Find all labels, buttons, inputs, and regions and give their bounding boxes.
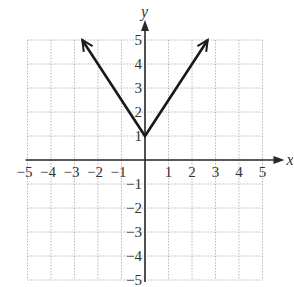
x-tick-label: −1 [111, 164, 127, 180]
y-tick-label: 4 [135, 56, 143, 72]
y-tick-label: −4 [126, 248, 142, 264]
coordinate-plane: −5−4−3−2−112345−5−4−3−2−112345 x y [0, 0, 293, 287]
y-axis-label: y [139, 3, 149, 21]
x-tick-label: −5 [17, 164, 33, 180]
x-axis-arrow-icon [274, 156, 285, 164]
y-tick-label: 3 [135, 80, 143, 96]
y-tick-label: −2 [126, 200, 142, 216]
x-tick-label: 2 [188, 164, 196, 180]
y-tick-label: −1 [126, 176, 142, 192]
x-tick-label: 3 [212, 164, 220, 180]
x-tick-label: 4 [235, 164, 243, 180]
y-axis-arrow-icon [141, 20, 149, 31]
y-tick-label: 2 [135, 104, 143, 120]
x-tick-label: 5 [259, 164, 267, 180]
y-tick-label: 5 [135, 32, 143, 48]
x-tick-label: −3 [64, 164, 80, 180]
x-axis-label: x [286, 151, 294, 168]
y-tick-label: −3 [126, 224, 142, 240]
x-tick-label: 1 [165, 164, 173, 180]
axes [26, 20, 285, 282]
x-tick-label: −4 [40, 164, 56, 180]
x-tick-label: −2 [87, 164, 103, 180]
y-tick-label: −5 [126, 272, 142, 287]
